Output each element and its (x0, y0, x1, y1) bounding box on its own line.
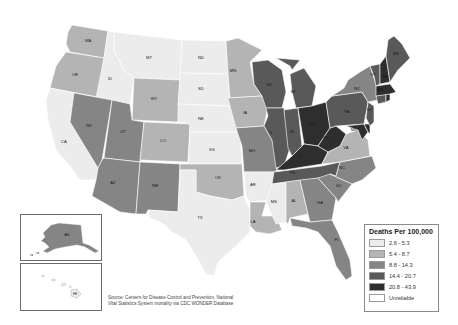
label-ma: MA (377, 87, 383, 92)
label-ak: AK (64, 232, 70, 237)
label-sd: SD (198, 86, 204, 91)
hawaii-map: HI (21, 264, 101, 310)
legend-item: Unreliable (369, 292, 434, 303)
label-id: ID (108, 76, 112, 81)
legend-swatch (369, 261, 385, 269)
label-tx: TX (197, 215, 203, 220)
label-hi: HI (73, 291, 77, 296)
state-fl[interactable] (290, 218, 352, 280)
legend-swatch (369, 239, 385, 247)
label-ar: AR (250, 182, 256, 187)
legend-label: 14.4 - 20.7 (389, 273, 416, 279)
label-in: IN (290, 129, 294, 134)
label-ks: KS (209, 147, 215, 152)
label-ia: IA (243, 110, 247, 115)
source-line-2: Vital Statistics System mortality via CD… (108, 301, 233, 307)
legend-swatch (369, 294, 385, 302)
label-ok: OK (215, 175, 221, 180)
legend-title: Deaths Per 100,000 (369, 228, 434, 235)
label-wa: WA (85, 38, 92, 43)
label-me: ME (393, 51, 399, 56)
alaska-inset: AK (20, 214, 102, 261)
hawaii-inset: HI (20, 263, 102, 311)
alaska-map: AK (21, 215, 101, 260)
legend-label: 5.4 - 8.7 (389, 251, 410, 257)
label-nc: NC (339, 165, 345, 170)
label-co: CO (160, 138, 167, 143)
label-wv: WV (323, 135, 330, 140)
legend-swatch (369, 272, 385, 280)
label-al: AL (291, 198, 297, 203)
label-mn: MN (230, 68, 237, 73)
label-az: AZ (110, 180, 116, 185)
label-nm: NM (152, 183, 159, 188)
label-nd: ND (198, 55, 204, 60)
legend: Deaths Per 100,000 2.6 - 5.3 5.4 - 8.7 8… (364, 224, 439, 312)
label-mi: MI (291, 89, 296, 94)
label-sc: SC (336, 183, 342, 188)
label-tn: TN (289, 170, 295, 175)
label-md: MD (351, 127, 358, 132)
state-me[interactable] (386, 36, 410, 82)
label-la: LA (250, 219, 255, 224)
state-ks[interactable] (188, 132, 242, 164)
label-ms: MS (271, 199, 277, 204)
legend-swatch (369, 250, 385, 258)
label-ut: UT (120, 129, 126, 134)
legend-label: 20.8 - 43.9 (389, 284, 416, 290)
state-sd[interactable] (178, 73, 230, 106)
legend-label: 8.8 - 14.3 (389, 262, 413, 268)
label-wy: WY (151, 96, 158, 101)
state-ri[interactable] (386, 94, 390, 102)
state-ak[interactable] (41, 223, 99, 253)
label-vt: VT (370, 72, 376, 77)
label-ca: CA (61, 139, 67, 144)
legend-item: 5.4 - 8.7 (369, 248, 434, 259)
source-line-1: Source: Centers for Disease Control and … (108, 295, 233, 301)
legend-item: 14.4 - 20.7 (369, 270, 434, 281)
label-ne: NE (198, 116, 204, 121)
label-ga: GA (317, 200, 323, 205)
legend-item: 8.8 - 14.3 (369, 259, 434, 270)
label-ky: KY (297, 154, 303, 159)
legend-item: 20.8 - 43.9 (369, 281, 434, 292)
state-az[interactable] (92, 158, 140, 214)
legend-item: 2.6 - 5.3 (369, 237, 434, 248)
source-note: Source: Centers for Disease Control and … (108, 295, 233, 306)
label-or: OR (72, 72, 78, 77)
label-mt: MT (146, 55, 152, 60)
label-nv: NV (86, 123, 92, 128)
label-nh: NH (382, 74, 388, 79)
label-wi: WI (266, 82, 271, 87)
label-oh: OH (309, 122, 315, 127)
legend-swatch (369, 283, 385, 291)
label-mo: MO (249, 148, 256, 153)
label-va: VA (343, 145, 348, 150)
label-fl: FL (335, 237, 341, 242)
legend-label: Unreliable (389, 295, 414, 301)
label-nj: NJ (366, 107, 371, 112)
label-ny: NY (354, 86, 360, 91)
label-pa: PA (344, 109, 349, 114)
legend-label: 2.6 - 5.3 (389, 240, 410, 246)
